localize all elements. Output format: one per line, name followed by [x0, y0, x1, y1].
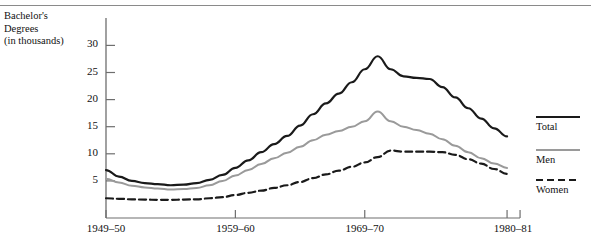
y-tick-label: 10: [76, 146, 98, 158]
x-tick-label: 1969–70: [320, 222, 410, 234]
series-line-men: [106, 112, 507, 190]
chart-figure: Bachelor's Degrees (in thousands) 510152…: [0, 0, 591, 241]
y-tick-label: 25: [76, 65, 98, 77]
legend-label-women: Women: [536, 184, 568, 195]
legend-label-total: Total: [536, 121, 557, 132]
y-tick-label: 30: [76, 37, 98, 49]
x-tick-label: 1959–60: [190, 222, 280, 234]
y-tick-label: 15: [76, 119, 98, 131]
legend-label-men: Men: [536, 154, 555, 165]
y-tick-label: 20: [76, 92, 98, 104]
y-tick-label: 5: [76, 173, 98, 185]
series-line-total: [106, 56, 507, 185]
x-tick-label: 1949–50: [61, 222, 151, 234]
series-line-women: [106, 151, 507, 200]
x-tick-label: 1980–81: [468, 222, 558, 234]
chart-series: [106, 56, 507, 200]
chart-axes: [106, 18, 520, 218]
